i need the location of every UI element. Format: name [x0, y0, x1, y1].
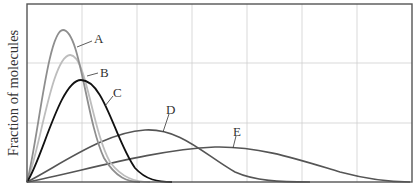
label-b: B: [100, 65, 109, 80]
label-leaders: [77, 41, 236, 148]
curve-e: [27, 147, 410, 182]
label-e: E: [233, 124, 241, 139]
grid: [27, 4, 412, 182]
label-c: C: [113, 85, 122, 100]
label-d: D: [166, 102, 175, 117]
plot-frame: [27, 4, 412, 182]
label-a: A: [94, 31, 104, 46]
curve-a: [27, 30, 140, 182]
curve-d: [27, 130, 310, 182]
curve-c: [27, 80, 172, 182]
maxwell-distribution-chart: A B C D E: [0, 0, 420, 190]
